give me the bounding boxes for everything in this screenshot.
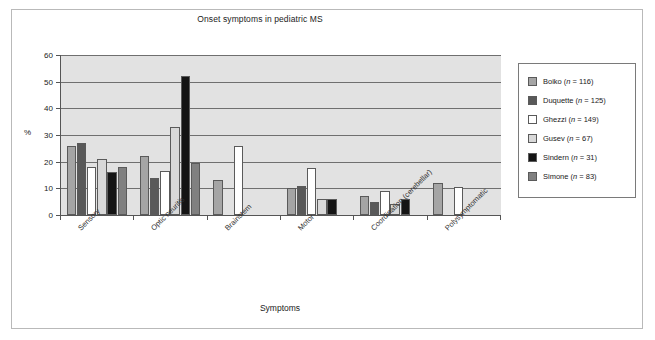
- bar-simone-optic-neuritis: [191, 163, 200, 215]
- bar-boiko-coordination-cerebellar: [360, 196, 369, 215]
- bar-sindern-sensory: [107, 172, 116, 215]
- gridline: [61, 108, 501, 109]
- legend-label: Duquette (n = 125): [543, 96, 606, 105]
- bar-duquette-optic-neuritis: [150, 178, 159, 215]
- legend-swatch-icon: [528, 96, 537, 105]
- x-tick-mark: [280, 216, 281, 220]
- bar-ghezzi-brainstem: [234, 146, 243, 215]
- legend-swatch-icon: [528, 77, 537, 86]
- chart-title: Onset symptoms in pediatric MS: [0, 14, 520, 24]
- legend-swatch-icon: [528, 134, 537, 143]
- legend-swatch-icon: [528, 172, 537, 181]
- legend-swatch-icon: [528, 153, 537, 162]
- plot-area: [60, 55, 501, 216]
- bar-duquette-coordination-cerebellar: [370, 202, 379, 215]
- y-tick-label: 30: [27, 131, 53, 140]
- x-tick-mark: [60, 216, 61, 220]
- bar-gusev-sensory: [97, 159, 106, 215]
- x-axis-title: Symptoms: [60, 303, 500, 313]
- bar-simone-sensory: [118, 167, 127, 215]
- x-tick-mark: [133, 216, 134, 220]
- legend-item-ghezzi[interactable]: Ghezzi (n = 149): [528, 113, 599, 125]
- bar-boiko-polysymptomatic: [433, 183, 442, 215]
- y-tick-label: 40: [27, 104, 53, 113]
- legend-label: Boiko (n = 116): [543, 77, 594, 86]
- gridline: [61, 82, 501, 83]
- bar-gusev-motor: [317, 199, 326, 215]
- bar-boiko-optic-neuritis: [140, 156, 149, 215]
- legend-item-boiko[interactable]: Boiko (n = 116): [528, 75, 594, 87]
- y-tick-mark: [56, 55, 60, 56]
- y-tick-mark: [56, 162, 60, 163]
- bar-ghezzi-motor: [307, 168, 316, 215]
- y-tick-label: 50: [27, 77, 53, 86]
- y-tick-mark: [56, 188, 60, 189]
- gridline: [61, 135, 501, 136]
- chart-figure: Onset symptoms in pediatric MS % 0102030…: [0, 0, 655, 340]
- bar-sindern-optic-neuritis: [181, 76, 190, 215]
- y-tick-mark: [56, 82, 60, 83]
- bar-boiko-motor: [287, 188, 296, 215]
- legend-label: Gusev (n = 67): [543, 134, 593, 143]
- bar-duquette-motor: [297, 186, 306, 215]
- legend-label: Simone (n = 83): [543, 172, 597, 181]
- y-tick-mark: [56, 108, 60, 109]
- legend-swatch-icon: [528, 115, 537, 124]
- bar-boiko-sensory: [67, 146, 76, 215]
- legend-label: Ghezzi (n = 149): [543, 115, 599, 124]
- x-tick-mark: [500, 216, 501, 220]
- y-tick-mark: [56, 135, 60, 136]
- chart-legend: Boiko (n = 116)Duquette (n = 125)Ghezzi …: [518, 63, 636, 198]
- y-tick-label: 0: [27, 211, 53, 220]
- y-tick-label: 20: [27, 157, 53, 166]
- bar-duquette-sensory: [77, 143, 86, 215]
- legend-item-gusev[interactable]: Gusev (n = 67): [528, 132, 593, 144]
- bar-sindern-motor: [327, 199, 336, 215]
- x-tick-mark: [427, 216, 428, 220]
- gridline: [61, 55, 501, 56]
- bar-boiko-brainstem: [213, 180, 222, 215]
- legend-item-duquette[interactable]: Duquette (n = 125): [528, 94, 606, 106]
- legend-item-simone[interactable]: Simone (n = 83): [528, 170, 597, 182]
- legend-item-sindern[interactable]: Sindern (n = 31): [528, 151, 597, 163]
- x-tick-mark: [207, 216, 208, 220]
- legend-label: Sindern (n = 31): [543, 153, 597, 162]
- y-tick-label: 60: [27, 51, 53, 60]
- x-tick-mark: [353, 216, 354, 220]
- y-tick-label: 10: [27, 184, 53, 193]
- gridline: [61, 162, 501, 163]
